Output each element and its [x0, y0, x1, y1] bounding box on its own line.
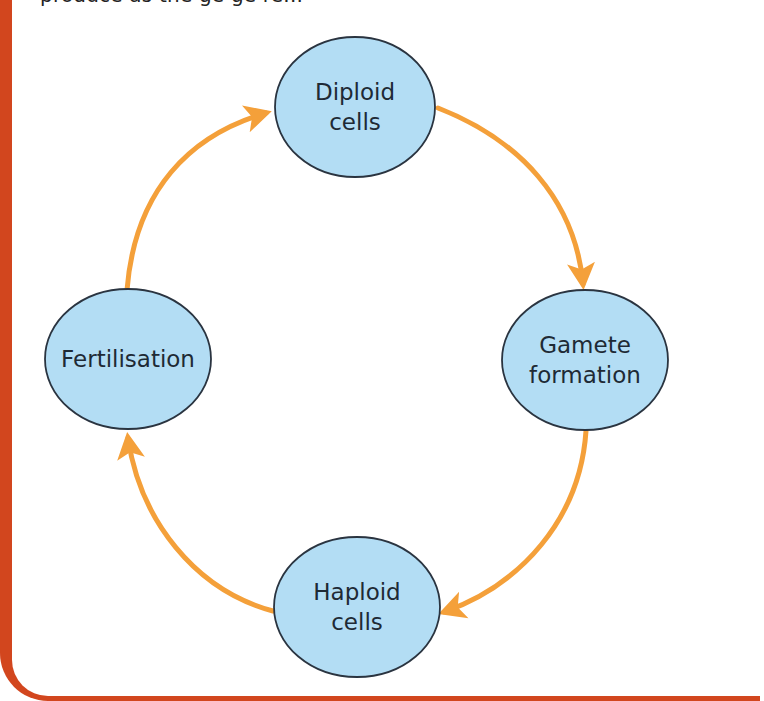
node-label-haploid-cells: Haploid cells: [274, 537, 440, 677]
arrow-gamete-to-haploid: [444, 431, 586, 612]
node-label-fertilisation: Fertilisation: [45, 289, 211, 429]
node-label-gamete-formation: Gamete formation: [502, 290, 668, 430]
arrow-haploid-to-fertilisation: [128, 438, 273, 611]
arrow-fertilisation-to-diploid: [127, 113, 266, 290]
arrow-diploid-to-gamete: [438, 108, 583, 284]
node-label-diploid-cells: Diploid cells: [275, 37, 435, 177]
